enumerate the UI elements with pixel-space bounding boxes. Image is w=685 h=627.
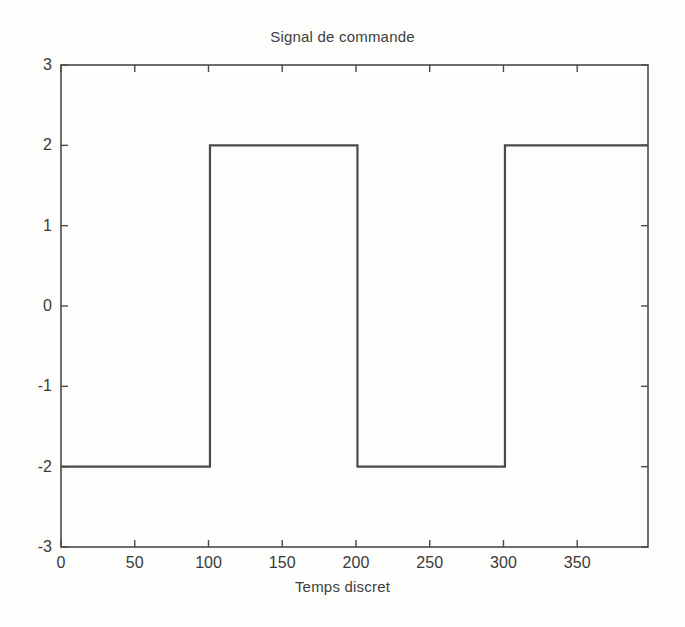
- x-axis-label: Temps discret: [0, 578, 685, 595]
- plot-area: [0, 0, 685, 627]
- y-tick-label: -3: [10, 538, 52, 556]
- y-tick-label: -1: [10, 377, 52, 395]
- y-tick-label: 2: [10, 136, 52, 154]
- y-tick-label: 3: [10, 56, 52, 74]
- x-tick-label: 0: [57, 554, 66, 572]
- x-tick-label: 250: [416, 554, 443, 572]
- y-tick-label: -2: [10, 458, 52, 476]
- x-tick-label: 150: [269, 554, 296, 572]
- signal-trace: [61, 145, 648, 466]
- x-tick-label: 350: [564, 554, 591, 572]
- x-tick-label: 100: [195, 554, 222, 572]
- figure-canvas: Signal de commande -3-2-10123 0501001502…: [0, 0, 685, 627]
- x-tick-label: 200: [343, 554, 370, 572]
- axes-frame: [61, 65, 648, 547]
- y-tick-label: 1: [10, 217, 52, 235]
- axis-ticks: [61, 65, 648, 547]
- y-tick-label: 0: [10, 297, 52, 315]
- x-tick-label: 300: [490, 554, 517, 572]
- x-tick-label: 50: [126, 554, 144, 572]
